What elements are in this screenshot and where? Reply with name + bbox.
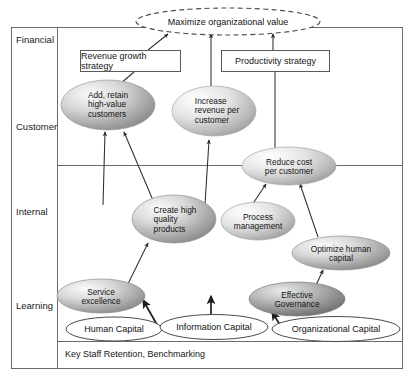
arrow-optimize-human-to-reduce-cost <box>300 184 318 237</box>
goal-label: Maximize organizational value <box>150 13 306 30</box>
objective-create-quality-line-3: products <box>150 225 201 234</box>
arrow-create-quality-to-increase-revenue <box>205 140 209 205</box>
strategy-map-diagram: Financial Customer Internal Learning Max… <box>0 0 403 378</box>
objective-reduce-cost: Reduce cost per customer <box>249 154 329 180</box>
objective-reduce-cost-line-2: per customer <box>261 167 317 176</box>
enabler-human-capital-label: Human Capital <box>68 321 160 337</box>
perspective-label-customer: Customer <box>16 121 57 132</box>
perspective-label-internal: Internal <box>16 206 48 217</box>
objective-optimize-human-capital-line-2: capital <box>307 254 375 263</box>
objective-service-excellence: Service excellence <box>62 284 140 310</box>
objective-create-quality: Create high quality products <box>140 200 210 240</box>
enabler-information-capital-label: Information Capital <box>162 319 266 335</box>
objective-service-excellence-line-2: excellence <box>77 297 124 306</box>
objective-increase-revenue-line-3: customer <box>191 116 243 125</box>
arrow-create-quality-to-add-retain <box>124 132 155 205</box>
arrow-service-to-add-retain <box>103 132 105 205</box>
productivity-strategy-label: Productivity strategy <box>222 51 329 71</box>
objective-effective-governance-line-2: Governance <box>270 300 323 309</box>
objective-add-retain-line-3: customers <box>84 110 132 119</box>
enabler-organizational-capital-label: Organizational Capital <box>276 321 396 337</box>
objective-process-management: Process management <box>222 209 294 235</box>
perspective-label-learning: Learning <box>16 300 53 311</box>
revenue-growth-strategy-label: Revenue growth strategy <box>81 51 180 71</box>
perspective-label-financial: Financial <box>16 34 54 45</box>
arrow-revenue-box-to-goal <box>148 34 168 50</box>
footer-measures-label: Key Staff Retention, Benchmarking <box>65 349 205 359</box>
objective-optimize-human-capital: Optimize human capital <box>295 241 387 267</box>
objective-add-retain: Add, retain high-value customers <box>68 85 148 125</box>
objective-process-management-line-2: management <box>230 222 286 231</box>
objective-effective-governance: Effective Governance <box>258 287 336 313</box>
objective-increase-revenue: Increase revenue per customer <box>180 91 254 131</box>
